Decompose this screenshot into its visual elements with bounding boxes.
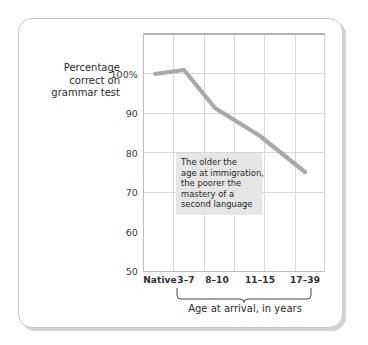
figure-root: 100% 90 80 70 60 50 Percentage correct o…	[0, 0, 368, 345]
annotation-line-3: the poorer the	[181, 178, 257, 189]
annotation-callout: The older the age at immigration, the po…	[176, 153, 262, 215]
annotation-line-5: second language	[181, 199, 257, 210]
annotation-line-1: The older the	[181, 157, 257, 168]
annotation-line-2: age at immigration,	[181, 168, 257, 179]
x-axis-title: Age at arrival, in years	[175, 303, 315, 314]
annotation-line-4: mastery of a	[181, 189, 257, 200]
